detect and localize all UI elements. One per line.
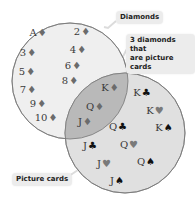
card-rank: 9: [30, 98, 36, 109]
diamond-icon: ♦: [26, 66, 35, 77]
diamonds-callout-pointer: [104, 21, 116, 28]
card-rank: 8: [62, 75, 68, 86]
card-rank: J: [97, 158, 101, 169]
card-j-of-spades: J♠: [110, 176, 124, 186]
diamond-icon: ♦: [27, 84, 36, 95]
card-rank: 3: [20, 47, 26, 58]
spade-icon: ♠: [115, 175, 124, 186]
diamond-icon: ♦: [81, 26, 90, 37]
card-rank: J: [110, 175, 114, 186]
card-rank: 7: [20, 84, 26, 95]
picture-cards-callout: Picture cards: [12, 173, 72, 186]
intersection-callout: 3 diamonds that are picture cards: [126, 34, 195, 74]
card-rank: Q: [109, 121, 117, 132]
card-rank: A: [29, 27, 36, 38]
card-rank: J: [83, 140, 87, 151]
club-icon: ♣: [118, 121, 127, 132]
diamond-icon: ♦: [72, 60, 81, 71]
card-rank: 6: [65, 60, 71, 71]
spade-icon: ♠: [164, 122, 173, 133]
intersection-callout-line2: are picture cards: [130, 54, 191, 72]
card-8-of-diamonds: 8♦: [62, 76, 78, 86]
card-rank: Q: [137, 156, 145, 167]
card-rank: K: [101, 82, 108, 93]
card-q-of-spades: Q♠: [137, 157, 155, 167]
card-rank: Q: [120, 139, 128, 150]
card-j-of-clubs: J♣: [83, 141, 97, 151]
card-rank: J: [78, 116, 82, 127]
card-k-of-spades: K♠: [155, 123, 172, 133]
diamond-icon: ♦: [95, 101, 104, 112]
card-rank: K: [133, 87, 140, 98]
card-rank: 5: [19, 66, 25, 77]
card-j-of-diamonds: J♦: [78, 117, 92, 127]
card-5-of-diamonds: 5♦: [19, 67, 35, 77]
diamond-icon: ♦: [83, 116, 92, 127]
card-k-of-clubs: K♣: [133, 88, 150, 98]
card-7-of-diamonds: 7♦: [20, 85, 36, 95]
card-rank: Q: [86, 101, 94, 112]
card-j-of-hearts: J♥: [97, 159, 111, 169]
heart-icon: ♥: [102, 158, 111, 169]
card-rank: 10: [35, 112, 48, 123]
card-rank: 2: [74, 26, 80, 37]
card-q-of-clubs: Q♣: [109, 122, 127, 132]
card-rank: 4: [70, 44, 76, 55]
card-6-of-diamonds: 6♦: [65, 61, 81, 71]
spade-icon: ♠: [146, 156, 155, 167]
card-rank: K: [155, 122, 162, 133]
card-9-of-diamonds: 9♦: [30, 99, 46, 109]
card-q-of-hearts: Q♥: [120, 140, 138, 150]
card-k-of-diamonds: K♦: [101, 83, 118, 93]
diamond-icon: ♦: [77, 44, 86, 55]
card-k-of-hearts: K♥: [146, 106, 163, 116]
intersection-callout-line1: 3 diamonds that: [130, 36, 191, 54]
heart-icon: ♥: [129, 139, 138, 150]
card-rank: K: [146, 105, 153, 116]
card-2-of-diamonds: 2♦: [74, 27, 90, 37]
diamond-icon: ♦: [48, 112, 57, 123]
picture-cards-callout-label: Picture cards: [16, 175, 68, 183]
card-q-of-diamonds: Q♦: [86, 102, 104, 112]
diamond-icon: ♦: [27, 47, 36, 58]
club-icon: ♣: [88, 140, 97, 151]
heart-icon: ♥: [155, 105, 164, 116]
diamonds-callout: Diamonds: [116, 11, 163, 24]
card-4-of-diamonds: 4♦: [70, 45, 86, 55]
club-icon: ♣: [142, 87, 151, 98]
card-10-of-diamonds: 10♦: [35, 113, 58, 123]
diamond-icon: ♦: [110, 82, 119, 93]
diamond-icon: ♦: [69, 75, 78, 86]
venn-diagram: Diamonds 3 diamonds that are picture car…: [0, 0, 195, 204]
diamonds-callout-label: Diamonds: [120, 13, 159, 21]
diamond-icon: ♦: [38, 27, 47, 38]
card-a-of-diamonds: A♦: [29, 28, 46, 38]
card-3-of-diamonds: 3♦: [20, 48, 36, 58]
diamond-icon: ♦: [37, 98, 46, 109]
